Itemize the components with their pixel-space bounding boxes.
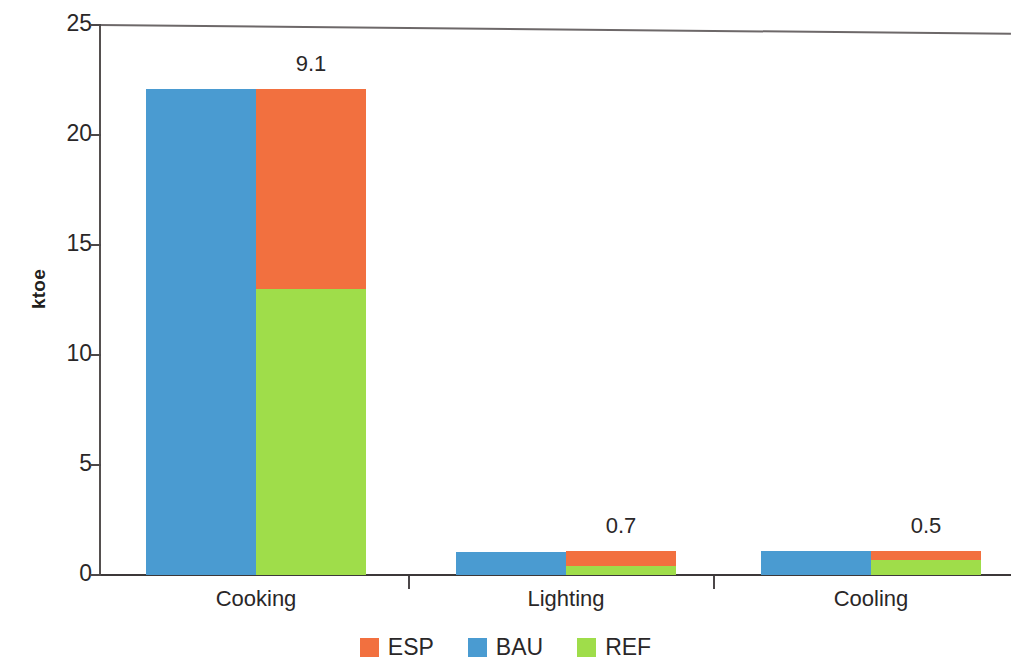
legend-swatch-icon bbox=[577, 638, 596, 657]
legend-swatch-icon bbox=[468, 638, 487, 657]
x-category-label: Lighting bbox=[416, 586, 716, 612]
legend-label: REF bbox=[605, 636, 651, 659]
y-tick-mark bbox=[90, 574, 101, 576]
x-tick-mark bbox=[408, 576, 410, 589]
x-category-label: Cooking bbox=[106, 586, 406, 612]
bar-segment-ref bbox=[566, 566, 676, 575]
y-tick-mark bbox=[90, 244, 101, 246]
y-tick-label: 5 bbox=[46, 452, 92, 475]
bar-segment-ref bbox=[871, 560, 981, 575]
bar-value-label: 0.7 bbox=[526, 513, 716, 539]
y-tick-label: 0 bbox=[46, 562, 92, 585]
y-tick-label: 20 bbox=[46, 122, 92, 145]
y-tick-label: 15 bbox=[46, 232, 92, 255]
plot-area bbox=[101, 25, 1011, 575]
bar-chart: ktoe 2520151050 CookingLightingCooling E… bbox=[0, 0, 1011, 668]
legend-swatch-icon bbox=[360, 638, 379, 657]
legend-item: BAU bbox=[468, 636, 543, 659]
bar-bau bbox=[146, 89, 256, 575]
y-tick-label: 25 bbox=[46, 12, 92, 35]
bar-bau bbox=[761, 551, 871, 575]
bar-segment-esp bbox=[566, 551, 676, 566]
x-category-label: Cooling bbox=[721, 586, 1011, 612]
legend-item: ESP bbox=[360, 636, 434, 659]
y-tick-mark bbox=[90, 464, 101, 466]
y-tick-mark bbox=[90, 134, 101, 136]
y-tick-mark bbox=[90, 24, 101, 26]
y-axis-title: ktoe bbox=[28, 244, 50, 334]
bar-segment-esp bbox=[256, 89, 366, 289]
bar-stack-ref-esp bbox=[871, 551, 981, 575]
legend-item: REF bbox=[577, 636, 651, 659]
bar-value-label: 0.5 bbox=[831, 513, 1011, 539]
legend-label: BAU bbox=[496, 636, 543, 659]
bar-stack-ref-esp bbox=[256, 89, 366, 575]
x-tick-mark bbox=[713, 576, 715, 589]
bar-stack-ref-esp bbox=[566, 551, 676, 575]
bar-value-label: 9.1 bbox=[216, 51, 406, 77]
y-tick-label: 10 bbox=[46, 342, 92, 365]
legend-label: ESP bbox=[388, 636, 434, 659]
bar-segment-ref bbox=[256, 289, 366, 575]
bar-segment-esp bbox=[871, 551, 981, 560]
y-tick-mark bbox=[90, 354, 101, 356]
bar-bau bbox=[456, 552, 566, 575]
chart-legend: ESPBAUREF bbox=[0, 636, 1011, 659]
